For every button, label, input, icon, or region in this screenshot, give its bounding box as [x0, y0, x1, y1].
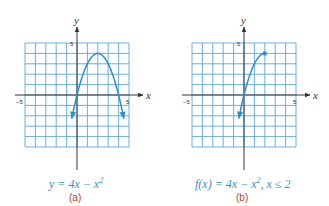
y-axis-label-a: y — [73, 14, 79, 26]
x-axis-label-b: x — [312, 89, 318, 101]
sublabel-a: (a) — [69, 192, 81, 203]
half-parabola-curve-b — [239, 53, 265, 118]
graph-a: x y −5 5 5 — [15, 14, 151, 170]
caption-b-domain: , x ≤ 2 — [261, 177, 291, 191]
y-axis-label-b: y — [240, 14, 246, 26]
tick-y5-b: 5 — [237, 41, 241, 47]
tick-neg5-a: −5 — [16, 99, 24, 105]
caption-b: f(x) = 4x − x2, x ≤ 2 — [195, 176, 290, 192]
caption-a: y = 4x − x2 — [49, 176, 103, 192]
sublabel-b: (b) — [236, 192, 248, 203]
tick-y5-a: 5 — [70, 41, 74, 47]
graph-b: x y −5 5 5 — [182, 14, 318, 170]
caption-b-text: f(x) = 4x − x — [195, 177, 257, 191]
caption-a-exponent: 2 — [99, 176, 103, 185]
caption-a-text: y = 4x − x — [49, 177, 99, 191]
tick-neg5-b: −5 — [183, 99, 191, 105]
x-axis-label-a: x — [145, 89, 151, 101]
endpoint-dot-b — [263, 51, 267, 55]
